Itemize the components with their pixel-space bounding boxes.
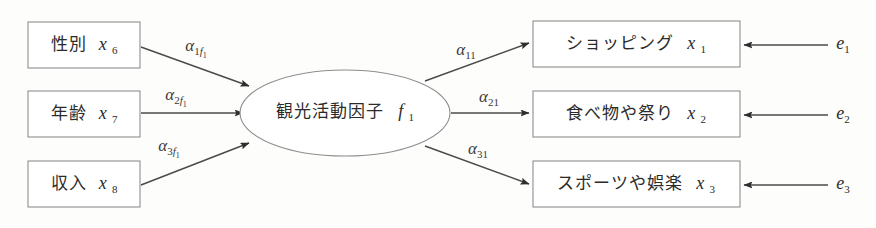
coefficient-label-alpha-1f1: α1f1: [185, 36, 207, 60]
coefficient-label-alpha-11: α11: [456, 40, 476, 61]
arrow-factor-to-shopping: [425, 43, 529, 81]
coefficient-label-alpha-2f1: α2f1: [165, 85, 187, 109]
indicator-box-shopping[interactable]: ショッピング x 1: [533, 21, 740, 67]
arrow-income-to-factor: [141, 143, 249, 185]
exogenous-box-age-label: 年齢 x 7: [51, 103, 119, 124]
path-diagram-canvas: 性別 x 6 年齢 x 7 収入 x 8 α: [0, 0, 876, 228]
coefficient-label-alpha-21: α21: [479, 87, 499, 108]
exogenous-box-age[interactable]: 年齢 x 7: [28, 91, 140, 137]
coefficient-label-alpha-3f1: α3f1: [158, 136, 180, 160]
exogenous-box-gender[interactable]: 性別 x 6: [28, 22, 140, 68]
indicator-box-sports[interactable]: スポーツや娯楽 x 3: [533, 161, 740, 207]
indicator-box-food[interactable]: 食べ物や祭り x 2: [533, 91, 740, 137]
exogenous-box-gender-label: 性別 x 6: [51, 34, 119, 55]
latent-factor-node[interactable]: 観光活動因子 f 1: [240, 70, 450, 156]
exogenous-box-income[interactable]: 収入 x 8: [28, 161, 140, 207]
exogenous-box-income-label: 収入 x 8: [51, 173, 119, 194]
error-term-label-e3: e3: [836, 173, 850, 194]
path-diagram-svg: 性別 x 6 年齢 x 7 収入 x 8 α: [0, 0, 876, 228]
error-term-label-e1: e1: [836, 33, 850, 54]
coefficient-label-alpha-31: α31: [468, 139, 488, 160]
error-term-label-e2: e2: [836, 103, 850, 124]
